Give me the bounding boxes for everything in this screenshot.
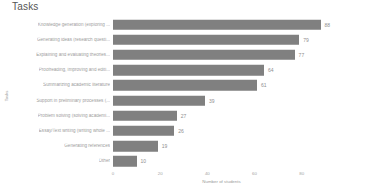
bar-value-label: 10 bbox=[141, 159, 147, 164]
bar-row: Generating ideas (research questi...79 bbox=[113, 32, 330, 47]
bar-row: Other10 bbox=[113, 154, 330, 169]
bar[interactable] bbox=[113, 65, 264, 76]
y-axis-title: Tasks bbox=[4, 91, 9, 102]
bar-value-label: 19 bbox=[162, 144, 168, 149]
category-label: Essay/Text writing (writing whole ... bbox=[39, 129, 110, 134]
category-label: Problem solving (solving academi... bbox=[38, 113, 110, 118]
bar-value-label: 39 bbox=[209, 98, 215, 103]
category-label: Support in preliminary processes (... bbox=[36, 98, 110, 103]
bar[interactable] bbox=[113, 80, 257, 91]
bar[interactable] bbox=[113, 95, 205, 106]
bar-value-label: 88 bbox=[325, 22, 331, 27]
bar[interactable] bbox=[113, 141, 158, 152]
bar-row: Essay/Text writing (writing whole ...26 bbox=[113, 123, 330, 138]
bar-row: Problem solving (solving academi...27 bbox=[113, 108, 330, 123]
bar-value-label: 79 bbox=[303, 37, 309, 42]
category-label: Proofreading, improving and editi... bbox=[39, 68, 110, 73]
bar-value-label: 77 bbox=[299, 52, 305, 57]
bar[interactable] bbox=[113, 19, 321, 30]
x-tick-label: 20 bbox=[158, 172, 163, 176]
bar[interactable] bbox=[113, 35, 299, 46]
category-label: Other bbox=[99, 159, 111, 164]
x-axis-title: Number of students bbox=[202, 180, 240, 184]
bar-row: Summarizing academic literature61 bbox=[113, 78, 330, 93]
bar-value-label: 26 bbox=[178, 128, 184, 133]
bar-value-label: 27 bbox=[181, 113, 187, 118]
x-tick-label: 0 bbox=[112, 172, 114, 176]
bar-chart: Tasks Tasks Knowledge generation (explor… bbox=[0, 0, 375, 193]
bar-row: Explaining and evaluating theories...77 bbox=[113, 47, 330, 62]
bar[interactable] bbox=[113, 126, 174, 137]
bar-row: Support in preliminary processes (...39 bbox=[113, 93, 330, 108]
bar-value-label: 64 bbox=[268, 68, 274, 73]
category-label: Knowledge generation (exploring ... bbox=[38, 22, 110, 27]
bar-row: Knowledge generation (exploring ...88 bbox=[113, 17, 330, 32]
x-tick-label: 40 bbox=[205, 172, 210, 176]
category-label: Summarizing academic literature bbox=[43, 83, 110, 88]
bar[interactable] bbox=[113, 156, 137, 167]
bar[interactable] bbox=[113, 50, 295, 61]
x-tick-label: 80 bbox=[299, 172, 304, 176]
x-axis: Number of students 020406080 bbox=[113, 169, 330, 193]
x-tick-label: 60 bbox=[252, 172, 257, 176]
plot-area: Knowledge generation (exploring ...88Gen… bbox=[113, 17, 330, 169]
chart-title: Tasks bbox=[12, 1, 39, 12]
category-label: Generating references bbox=[64, 144, 110, 149]
bar-row: Proofreading, improving and editi...64 bbox=[113, 63, 330, 78]
bar-row: Generating references19 bbox=[113, 139, 330, 154]
bar[interactable] bbox=[113, 111, 177, 122]
category-label: Explaining and evaluating theories... bbox=[36, 53, 110, 58]
bar-value-label: 61 bbox=[261, 83, 267, 88]
category-label: Generating ideas (research questi... bbox=[37, 37, 110, 42]
